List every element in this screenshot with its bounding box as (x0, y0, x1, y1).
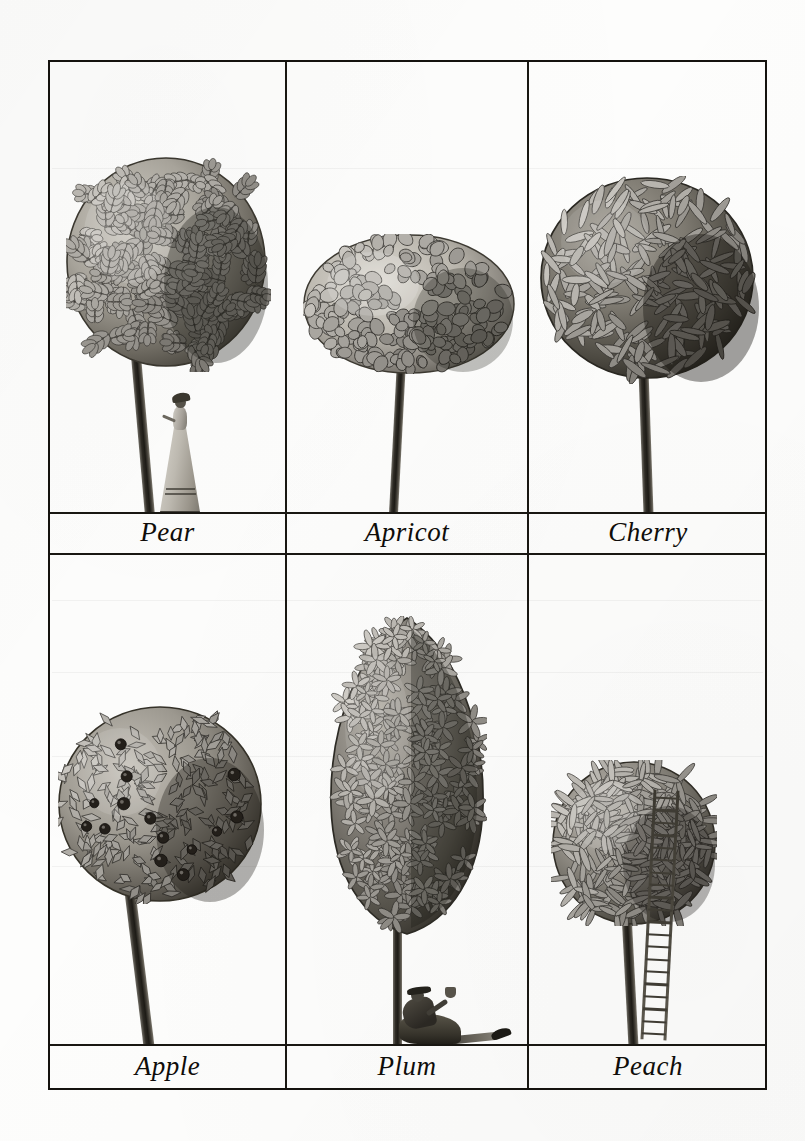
label-cell-apple: Apple (50, 1044, 285, 1090)
ladder-rung (653, 809, 677, 813)
apricot-trunk (389, 362, 406, 512)
pear-crown (66, 157, 271, 372)
ladder-rung (648, 921, 672, 925)
cherry-foliage-icon (539, 176, 759, 384)
apple-tree (50, 555, 285, 1044)
tree-label-apple: Apple (135, 1051, 200, 1082)
lady-sash (166, 488, 195, 490)
ladder-rung (652, 834, 676, 838)
ladder-rung (647, 933, 671, 937)
pear-trunk (131, 360, 154, 512)
peach-foliage-icon (551, 760, 717, 926)
ladder-rung (642, 1032, 666, 1036)
plate-frame: Pear Apricot Cherry (48, 60, 767, 1090)
man-cup-icon (445, 987, 456, 998)
ladder-rung (646, 945, 670, 949)
plum-crown (327, 616, 487, 936)
tree-cell-plum (287, 555, 527, 1044)
peach-crown (551, 760, 717, 926)
lady-bonnet-icon (171, 392, 190, 404)
label-cell-pear: Pear (50, 512, 285, 555)
label-cell-cherry: Cherry (529, 512, 767, 555)
apple-crown (58, 704, 266, 904)
ladder-rung (653, 821, 677, 825)
ladder-rung (650, 871, 674, 875)
ladder-rung (644, 995, 668, 999)
tree-label-apricot: Apricot (365, 517, 450, 548)
tree-label-plum: Plum (378, 1051, 437, 1082)
apple-trunk (125, 894, 154, 1044)
ladder-rung (645, 970, 669, 974)
tree-cell-cherry (529, 62, 767, 512)
ladder-rung (643, 1007, 667, 1011)
cherry-tree (529, 62, 767, 512)
apricot-crown (303, 234, 515, 374)
lady-bodice (173, 406, 187, 430)
cherry-trunk (639, 372, 654, 512)
label-cell-peach: Peach (529, 1044, 767, 1090)
ladder-rung (650, 883, 674, 887)
apricot-tree (287, 62, 527, 512)
lady-sash (165, 493, 196, 495)
label-cell-plum: Plum (287, 1044, 527, 1090)
pear-figure-lady (160, 388, 206, 512)
pear-foliage-icon (66, 157, 271, 372)
apple-foliage-icon (58, 704, 266, 904)
ladder-rung (644, 983, 668, 987)
plum-figure-man (399, 982, 519, 1044)
pear-tree (50, 62, 285, 512)
tree-cell-apricot (287, 62, 527, 512)
lady-skirt (160, 425, 200, 512)
ladder-rung (651, 846, 675, 850)
tree-cell-peach (529, 555, 767, 1044)
tree-label-pear: Pear (140, 517, 194, 548)
illustration-plate: Pear Apricot Cherry (0, 0, 805, 1141)
peach-trunk (622, 916, 639, 1044)
ladder-rung (642, 1020, 666, 1024)
ladder-rung (651, 859, 675, 863)
plum-tree (287, 555, 527, 1044)
man-boot (490, 1026, 512, 1041)
ladder-rung (654, 797, 678, 801)
apricot-foliage-icon (303, 234, 515, 374)
ladder-rung (646, 958, 670, 962)
tree-label-cherry: Cherry (608, 517, 688, 548)
peach-tree (529, 555, 767, 1044)
tree-cell-apple (50, 555, 285, 1044)
tree-label-peach: Peach (613, 1051, 683, 1082)
plum-foliage-icon (327, 616, 487, 936)
ladder-rung (648, 908, 672, 912)
label-cell-apricot: Apricot (287, 512, 527, 555)
tree-cell-pear (50, 62, 285, 512)
cherry-crown (539, 176, 759, 384)
ladder-rung (649, 896, 673, 900)
